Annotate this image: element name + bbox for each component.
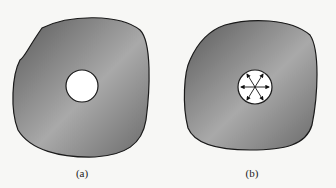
panel-a <box>13 18 149 157</box>
caption-a: (a) <box>76 167 88 179</box>
hole-a <box>66 70 98 102</box>
panel-b <box>184 21 317 150</box>
figure-canvas <box>0 0 336 188</box>
caption-b: (b) <box>246 167 259 179</box>
